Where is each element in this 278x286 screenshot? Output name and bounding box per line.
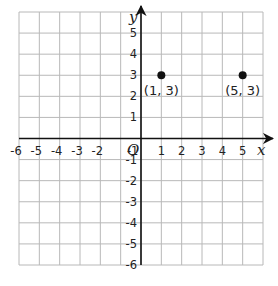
x-axis-label: x — [257, 141, 266, 159]
x-tick-label: 2 — [178, 144, 185, 158]
y-tick-label: -5 — [126, 237, 137, 251]
y-tick-label: -1 — [126, 153, 137, 167]
x-tick-label: 3 — [198, 144, 205, 158]
x-tick-label: -5 — [31, 144, 42, 158]
y-tick-label: 4 — [130, 47, 137, 61]
y-tick-label: 3 — [130, 68, 137, 82]
y-tick-label: 5 — [130, 26, 137, 40]
point-marker — [239, 71, 247, 79]
y-tick-label: 1 — [130, 110, 137, 124]
y-tick-label: -3 — [126, 195, 137, 209]
point-label: (5, 3) — [225, 83, 260, 98]
x-tick-label: -2 — [92, 144, 103, 158]
y-tick-label: 2 — [130, 89, 137, 103]
coordinate-plane: xyO -6-5-4-3-2-11234554321-1-2-3-4-5-6 (… — [0, 0, 278, 286]
point-marker — [157, 71, 165, 79]
y-axis-label: y — [128, 8, 138, 26]
x-tick-label: 1 — [158, 144, 165, 158]
x-tick-label: -4 — [51, 144, 62, 158]
x-tick-label: 5 — [239, 144, 246, 158]
axes: xyO — [19, 6, 273, 265]
point-label: (1, 3) — [144, 83, 179, 98]
x-tick-label: -6 — [10, 144, 21, 158]
y-tick-label: -6 — [126, 258, 137, 272]
y-tick-label: -4 — [126, 216, 137, 230]
y-tick-label: -2 — [126, 174, 137, 188]
x-tick-label: -3 — [71, 144, 82, 158]
tick-labels: -6-5-4-3-2-11234554321-1-2-3-4-5-6 — [10, 26, 246, 272]
x-tick-label: 4 — [219, 144, 226, 158]
